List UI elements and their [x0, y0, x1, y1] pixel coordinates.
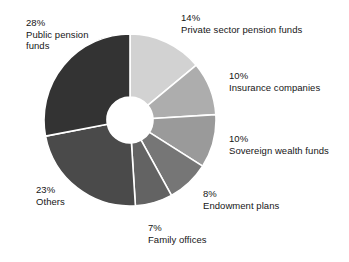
slice-category-endowment-plans: Endowment plans [203, 200, 279, 212]
slice-label-sovereign-wealth-funds: 10% Sovereign wealth funds [229, 133, 329, 156]
slice-percent-public-pension-funds: 28% [26, 17, 90, 29]
slice-percent-insurance-companies: 10% [229, 70, 320, 82]
slice-percent-sovereign-wealth-funds: 10% [229, 133, 329, 145]
donut-chart [44, 34, 216, 206]
slice-category-public-pension-funds: Public pension funds [26, 29, 90, 52]
slice-category-sovereign-wealth-funds: Sovereign wealth funds [229, 145, 329, 157]
slice-percent-family-offices: 7% [148, 222, 207, 234]
slice-label-others: 23% Others [36, 184, 65, 207]
slice-label-endowment-plans: 8% Endowment plans [203, 188, 279, 211]
slice-label-public-pension-funds: 28% Public pension funds [26, 17, 90, 52]
donut-center-hole [107, 97, 153, 143]
chart-page: 28% Public pension funds 14% Private sec… [0, 0, 349, 262]
donut-chart-svg [44, 34, 216, 206]
slice-label-family-offices: 7% Family offices [148, 222, 207, 245]
slice-percent-private-sector-pension-funds: 14% [181, 12, 302, 24]
slice-category-private-sector-pension-funds: Private sector pension funds [181, 24, 302, 36]
slice-label-insurance-companies: 10% Insurance companies [229, 70, 320, 93]
slice-category-others: Others [36, 196, 65, 208]
slice-label-private-sector-pension-funds: 14% Private sector pension funds [181, 12, 302, 35]
slice-category-family-offices: Family offices [148, 234, 207, 246]
slice-percent-endowment-plans: 8% [203, 188, 279, 200]
slice-percent-others: 23% [36, 184, 65, 196]
slice-category-insurance-companies: Insurance companies [229, 82, 320, 94]
